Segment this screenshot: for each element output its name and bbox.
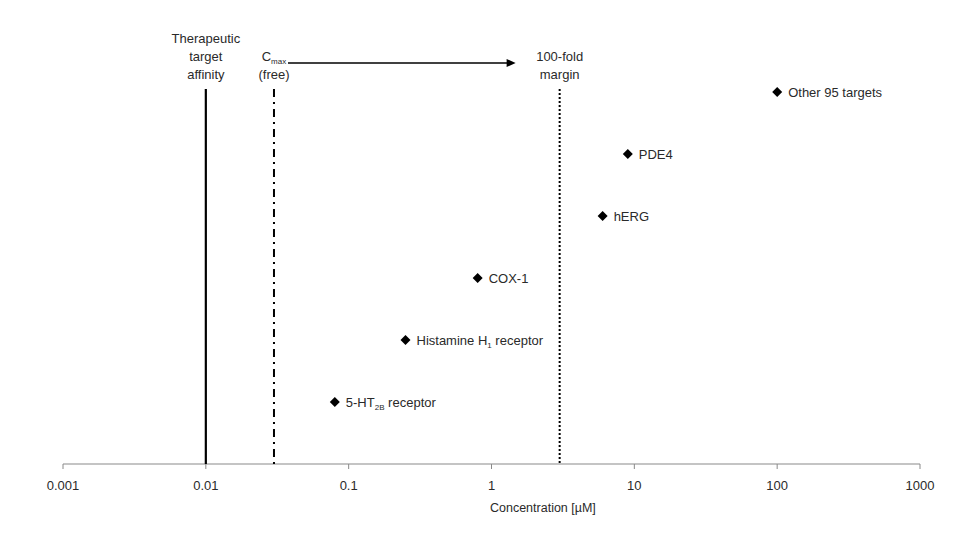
100-fold-margin-label: margin bbox=[540, 67, 580, 82]
x-axis-title: Concentration [µM] bbox=[490, 501, 596, 515]
data-point-label: 5-HT2B receptor bbox=[346, 395, 437, 412]
data-point-label: PDE4 bbox=[639, 147, 673, 162]
data-point-label: Histamine H1 receptor bbox=[417, 333, 544, 350]
data-point-histamine-h1-receptor: Histamine H1 receptor bbox=[401, 333, 544, 350]
therapeutic-target-affinity-label: Therapeutic bbox=[172, 31, 241, 46]
data-point-label: Other 95 targets bbox=[788, 85, 882, 100]
data-point-other-95-targets: Other 95 targets bbox=[772, 85, 882, 100]
diamond-marker bbox=[330, 397, 340, 407]
cmax-free-label: Cmax bbox=[262, 49, 287, 66]
x-tick-label: 10 bbox=[627, 478, 641, 493]
100-fold-margin-label: 100-fold bbox=[536, 49, 583, 64]
diamond-marker bbox=[401, 335, 411, 345]
chart: 0.0010.010.11101001000 Therapeutictarget… bbox=[0, 0, 972, 547]
x-tick-label: 0.001 bbox=[47, 478, 80, 493]
x-tick-label: 0.01 bbox=[193, 478, 218, 493]
margin-arrow-head bbox=[507, 59, 516, 67]
x-axis: 0.0010.010.11101001000 bbox=[47, 464, 935, 493]
data-point-cox-1: COX-1 bbox=[473, 271, 529, 286]
diamond-marker bbox=[598, 211, 608, 221]
reference-lines: TherapeutictargetaffinityCmax(free)100-f… bbox=[172, 31, 584, 464]
x-tick-label: 1 bbox=[488, 478, 495, 493]
therapeutic-target-affinity-label: target bbox=[189, 49, 223, 64]
diamond-marker bbox=[623, 149, 633, 159]
data-points: 5-HT2B receptorHistamine H1 receptorCOX-… bbox=[330, 85, 883, 412]
x-tick-label: 100 bbox=[766, 478, 788, 493]
diamond-marker bbox=[772, 87, 782, 97]
data-point-label: COX-1 bbox=[489, 271, 529, 286]
x-tick-label: 0.1 bbox=[340, 478, 358, 493]
data-point-5-ht2b-receptor: 5-HT2B receptor bbox=[330, 395, 437, 412]
diamond-marker bbox=[473, 273, 483, 283]
therapeutic-target-affinity-label: affinity bbox=[187, 67, 225, 82]
data-point-herg: hERG bbox=[598, 209, 649, 224]
cmax-free-label-line2: (free) bbox=[258, 67, 289, 82]
x-tick-label: 1000 bbox=[906, 478, 935, 493]
data-point-label: hERG bbox=[614, 209, 649, 224]
data-point-pde4: PDE4 bbox=[623, 147, 673, 162]
